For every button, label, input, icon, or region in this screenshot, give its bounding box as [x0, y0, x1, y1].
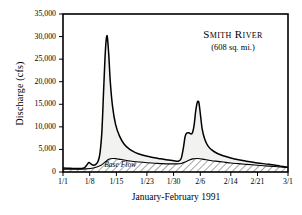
y-tick-label: 35,000 — [10, 9, 56, 18]
y-tick-label: 25,000 — [10, 54, 56, 63]
x-tick-label: 2/6 — [183, 177, 217, 186]
y-tick-label: 0 — [10, 167, 56, 176]
y-tick-label: 20,000 — [10, 77, 56, 86]
y-tick-label: 30,000 — [10, 32, 56, 41]
y-axis-label: Discharge (cfs) — [14, 34, 25, 154]
x-axis-label: January-February 1991 — [63, 192, 289, 202]
y-tick-label: 10,000 — [10, 122, 56, 131]
hydrograph-figure: Discharge (cfs) January-February 1991 Sm… — [0, 0, 302, 215]
y-tick-label: 5,000 — [10, 144, 56, 153]
x-tick-label: 1/15 — [99, 177, 133, 186]
x-tick-label: 2/21 — [240, 177, 274, 186]
y-tick-label: 15,000 — [10, 99, 56, 108]
x-tick-label: 3/1 — [271, 177, 302, 186]
chart-subtitle: (608 sq. mi.) — [178, 42, 288, 52]
total-discharge-area — [63, 36, 288, 172]
base-flow-annotation: Base Flow — [104, 160, 136, 169]
chart-title: Smith River — [178, 28, 288, 40]
total-discharge-line — [63, 36, 288, 169]
